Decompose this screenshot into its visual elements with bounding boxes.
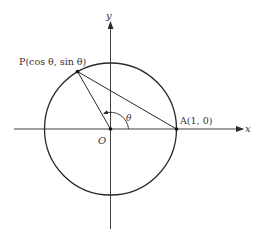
point-p [76, 70, 80, 74]
diagram-canvas: y x O θ A(1, 0) P(cos θ, sin θ) [0, 0, 260, 237]
origin-label: O [98, 135, 106, 146]
point-o [109, 127, 113, 131]
angle-label: θ [126, 113, 132, 123]
point-p-label: P(cos θ, sin θ) [19, 56, 86, 67]
point-a-label: A(1, 0) [179, 115, 212, 126]
y-axis-label: y [105, 10, 112, 21]
point-a [175, 127, 179, 131]
angle-arc [104, 112, 129, 129]
unit-circle-diagram: y x O θ A(1, 0) P(cos θ, sin θ) [0, 0, 260, 237]
segment-op [78, 72, 111, 130]
x-axis-label: x [245, 123, 251, 134]
